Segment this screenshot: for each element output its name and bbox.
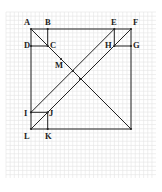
point-A-dot <box>30 28 32 30</box>
geometry-diagram: ABCDEFGHMIJKL <box>0 0 162 192</box>
point-B-dot <box>47 28 49 30</box>
point-D-dot <box>30 45 32 47</box>
label-E: E <box>111 17 117 27</box>
label-A: A <box>24 17 31 27</box>
grid-background <box>6 12 156 178</box>
intersection-dot <box>72 70 74 72</box>
label-C: C <box>50 40 56 50</box>
point-G-dot <box>130 45 132 47</box>
point-C-dot <box>47 45 49 47</box>
point-corner-dot <box>130 128 132 130</box>
point-F-dot <box>130 28 132 30</box>
label-L: L <box>24 131 30 141</box>
point-K-dot <box>47 128 49 130</box>
label-B: B <box>45 17 51 27</box>
label-G: G <box>133 40 140 50</box>
label-D: D <box>24 40 30 50</box>
label-M: M <box>55 60 63 70</box>
point-L-dot <box>30 128 32 130</box>
point-I-dot <box>30 111 32 113</box>
label-K: K <box>45 131 52 141</box>
intersection-dot <box>79 78 81 80</box>
point-H-dot <box>113 45 115 47</box>
point-E-dot <box>113 28 115 30</box>
label-H: H <box>105 40 112 50</box>
label-F: F <box>133 17 138 27</box>
